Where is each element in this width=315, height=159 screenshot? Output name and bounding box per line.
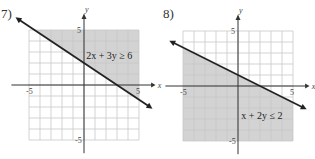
graph-8: xy-555-5x + 2y ≤ 28) xyxy=(163,6,315,154)
y-tick-label: 5 xyxy=(77,26,81,35)
y-axis-label: y xyxy=(84,5,89,14)
problem-number: 7) xyxy=(1,6,12,21)
x-axis-label: x xyxy=(311,82,315,91)
y-tick-label: -5 xyxy=(75,136,82,145)
graph-7: xy-555-52x + 3y ≥ 67) xyxy=(1,5,162,153)
graphs-canvas: xy-555-52x + 3y ≥ 67) xy-555-5x + 2y ≤ 2… xyxy=(0,0,315,159)
x-axis-arrow xyxy=(151,83,155,88)
inequality-label: 2x + 3y ≥ 6 xyxy=(86,50,132,61)
y-tick-label: 5 xyxy=(231,27,235,36)
inequality-label: x + 2y ≤ 2 xyxy=(241,110,282,121)
x-axis-arrow xyxy=(305,84,309,89)
x-axis-label: x xyxy=(157,81,162,90)
x-tick-label: 5 xyxy=(136,87,140,96)
problem-number: 8) xyxy=(163,6,174,21)
x-tick-label: 5 xyxy=(290,88,294,97)
x-tick-label: -5 xyxy=(180,88,187,97)
y-tick-label: -5 xyxy=(229,137,236,146)
x-tick-label: -5 xyxy=(26,87,33,96)
y-axis-label: y xyxy=(238,6,243,15)
